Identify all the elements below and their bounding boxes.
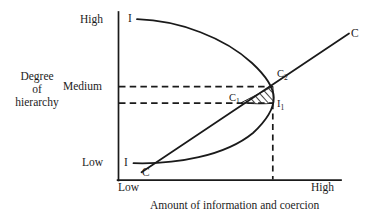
- curve-label-information-bottom: I: [124, 156, 128, 169]
- point-label-c1-sub: 1: [236, 97, 240, 106]
- x-axis-title: Amount of information and coercion: [150, 199, 319, 212]
- curve-label-coercion-bottom: C: [142, 166, 150, 179]
- point-label-i1: I1: [277, 98, 284, 112]
- x-tick-high: High: [311, 181, 334, 194]
- x-tick-low: Low: [118, 181, 139, 194]
- y-axis-title-line-1: Degree: [11, 70, 63, 83]
- point-label-c2-sub: 2: [284, 73, 288, 82]
- y-tick-medium: Medium: [63, 80, 102, 93]
- curve-label-coercion-top: C: [351, 27, 359, 40]
- y-axis-title: Degree of hierarchy: [11, 70, 63, 109]
- curve-label-information-top: I: [128, 12, 132, 25]
- point-label-c1: C1: [229, 92, 240, 106]
- point-label-i1-sub: 1: [281, 103, 285, 112]
- point-label-c1-base: C: [229, 92, 236, 103]
- y-tick-high: High: [80, 13, 103, 26]
- information-curve: [134, 19, 274, 163]
- y-axis-title-line-2: of: [11, 83, 63, 96]
- point-label-c2: C2: [277, 68, 288, 82]
- y-tick-low: Low: [82, 156, 103, 169]
- point-label-c2-base: C: [277, 68, 284, 79]
- y-axis-title-line-3: hierarchy: [11, 96, 63, 109]
- hierarchy-information-diagram: High Medium Low Degree of hierarchy Low …: [0, 0, 373, 219]
